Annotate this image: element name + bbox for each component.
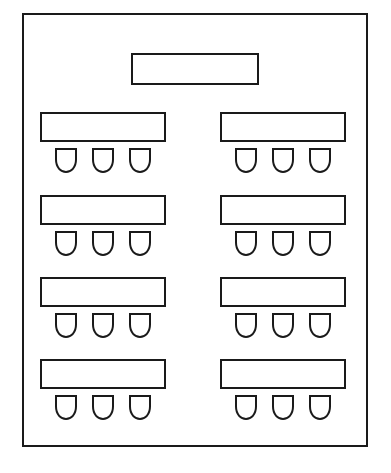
chair[interactable] xyxy=(129,148,151,177)
head-table[interactable] xyxy=(131,53,259,85)
chair[interactable] xyxy=(129,395,151,424)
chair[interactable] xyxy=(92,313,114,342)
chair[interactable] xyxy=(235,313,257,342)
chair[interactable] xyxy=(309,231,331,260)
chair[interactable] xyxy=(129,313,151,342)
chair[interactable] xyxy=(55,395,77,424)
chair[interactable] xyxy=(272,231,294,260)
chair[interactable] xyxy=(129,231,151,260)
chair[interactable] xyxy=(55,148,77,177)
chair[interactable] xyxy=(92,395,114,424)
chair[interactable] xyxy=(92,148,114,177)
guest-table[interactable] xyxy=(40,359,166,389)
chair[interactable] xyxy=(272,148,294,177)
guest-table[interactable] xyxy=(220,277,346,307)
guest-table[interactable] xyxy=(220,359,346,389)
guest-table[interactable] xyxy=(220,195,346,225)
chair[interactable] xyxy=(309,148,331,177)
chair[interactable] xyxy=(235,395,257,424)
guest-table[interactable] xyxy=(40,277,166,307)
chair[interactable] xyxy=(55,313,77,342)
guest-table[interactable] xyxy=(40,195,166,225)
chair[interactable] xyxy=(309,313,331,342)
chair[interactable] xyxy=(272,395,294,424)
guest-table[interactable] xyxy=(220,112,346,142)
chair[interactable] xyxy=(235,148,257,177)
guest-table[interactable] xyxy=(40,112,166,142)
chair[interactable] xyxy=(55,231,77,260)
chair[interactable] xyxy=(272,313,294,342)
chair[interactable] xyxy=(235,231,257,260)
chair[interactable] xyxy=(92,231,114,260)
chair[interactable] xyxy=(309,395,331,424)
seating-diagram-canvas: Classroom Seating Layout Room plan with … xyxy=(0,0,391,473)
